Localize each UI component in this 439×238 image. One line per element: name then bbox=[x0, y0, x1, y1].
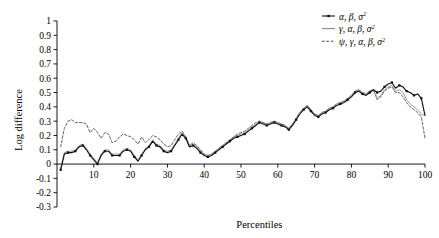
series-marker-0 bbox=[126, 149, 128, 151]
legend-label-2: ψ, γ, α, β, σ2 bbox=[339, 36, 386, 47]
series-marker-0 bbox=[354, 91, 356, 93]
legend-label-0: α, β, σ2 bbox=[339, 10, 367, 21]
series-marker-0 bbox=[118, 154, 120, 156]
series-marker-0 bbox=[177, 139, 179, 141]
series-marker-0 bbox=[67, 152, 69, 154]
series-marker-0 bbox=[302, 109, 304, 111]
y-axis-tick-label: 0.1 bbox=[39, 145, 51, 155]
series-line-2 bbox=[61, 87, 425, 156]
x-axis-tick-label: 90 bbox=[383, 170, 393, 180]
y-axis-tick-label: 0.9 bbox=[39, 31, 51, 41]
legend-marker-0 bbox=[327, 15, 329, 17]
series-marker-0 bbox=[89, 154, 91, 156]
y-axis-tick-label: 1 bbox=[46, 16, 51, 26]
series-marker-0 bbox=[74, 150, 76, 152]
y-axis-tick-label: 0.7 bbox=[39, 59, 51, 69]
series-marker-0 bbox=[273, 121, 275, 123]
x-axis-tick-label: 30 bbox=[163, 170, 173, 180]
series-marker-0 bbox=[222, 146, 224, 148]
series-marker-0 bbox=[141, 154, 143, 156]
series-marker-0 bbox=[207, 156, 209, 158]
series-marker-0 bbox=[60, 169, 62, 171]
series-marker-0 bbox=[288, 129, 290, 131]
series-marker-0 bbox=[295, 119, 297, 121]
x-axis-tick-label: 20 bbox=[126, 170, 136, 180]
x-axis-tick-label: 40 bbox=[199, 170, 209, 180]
series-marker-0 bbox=[332, 107, 334, 109]
legend-label-1: γ, α, β, σ2 bbox=[339, 23, 375, 34]
chart-canvas: 10.90.80.70.60.50.40.30.20.10-0.1-0.2-0.… bbox=[0, 0, 439, 238]
series-marker-0 bbox=[413, 94, 415, 96]
series-marker-0 bbox=[361, 93, 363, 95]
y-axis-title: Log difference bbox=[13, 89, 24, 151]
series-marker-0 bbox=[155, 144, 157, 146]
series-marker-0 bbox=[133, 156, 135, 158]
series-marker-0 bbox=[229, 140, 231, 142]
y-axis-tick-label: 0.5 bbox=[39, 88, 51, 98]
x-axis-title: Percentiles bbox=[236, 219, 282, 230]
x-axis-tick-label: 80 bbox=[347, 170, 357, 180]
chart-figure: 10.90.80.70.60.50.40.30.20.10-0.1-0.2-0.… bbox=[0, 0, 439, 238]
y-axis-tick-label: -0.3 bbox=[36, 202, 51, 212]
y-axis-tick-label: 0.4 bbox=[39, 102, 51, 112]
x-axis-tick-label: 50 bbox=[236, 170, 246, 180]
series-marker-0 bbox=[420, 97, 422, 99]
series-marker-0 bbox=[111, 154, 113, 156]
y-axis-tick-label: -0.2 bbox=[36, 188, 51, 198]
series-marker-0 bbox=[266, 124, 268, 126]
series-marker-0 bbox=[244, 133, 246, 135]
series-marker-0 bbox=[185, 137, 187, 139]
y-axis-tick-label: -0.1 bbox=[36, 174, 51, 184]
series-marker-0 bbox=[339, 103, 341, 105]
series-marker-0 bbox=[170, 150, 172, 152]
y-axis-tick-label: 0.8 bbox=[39, 45, 51, 55]
series-marker-0 bbox=[406, 90, 408, 92]
series-marker-0 bbox=[376, 91, 378, 93]
series-marker-0 bbox=[192, 144, 194, 146]
series-line-0 bbox=[61, 83, 425, 170]
y-axis-tick-label: 0.3 bbox=[39, 117, 51, 127]
series-marker-0 bbox=[369, 91, 371, 93]
series-marker-0 bbox=[214, 152, 216, 154]
y-axis-tick-label: 0.2 bbox=[39, 131, 51, 141]
series-marker-0 bbox=[391, 81, 393, 83]
series-marker-0 bbox=[398, 84, 400, 86]
series-marker-0 bbox=[96, 163, 98, 165]
x-axis-tick-label: 100 bbox=[418, 170, 433, 180]
series-marker-0 bbox=[258, 121, 260, 123]
x-axis-tick-label: 10 bbox=[89, 170, 99, 180]
series-marker-0 bbox=[347, 99, 349, 101]
y-axis-tick-label: 0 bbox=[46, 159, 51, 169]
series-marker-0 bbox=[148, 146, 150, 148]
x-axis-tick-label: 70 bbox=[310, 170, 320, 180]
series-marker-0 bbox=[163, 150, 165, 152]
x-axis-tick-label: 60 bbox=[273, 170, 283, 180]
series-marker-0 bbox=[251, 127, 253, 129]
series-marker-0 bbox=[104, 150, 106, 152]
series-marker-0 bbox=[383, 86, 385, 88]
series-marker-0 bbox=[325, 111, 327, 113]
series-marker-0 bbox=[199, 152, 201, 154]
series-marker-0 bbox=[280, 124, 282, 126]
series-marker-0 bbox=[82, 144, 84, 146]
series-marker-0 bbox=[310, 110, 312, 112]
y-axis-tick-label: 0.6 bbox=[39, 74, 51, 84]
series-marker-0 bbox=[317, 116, 319, 118]
series-marker-0 bbox=[236, 136, 238, 138]
